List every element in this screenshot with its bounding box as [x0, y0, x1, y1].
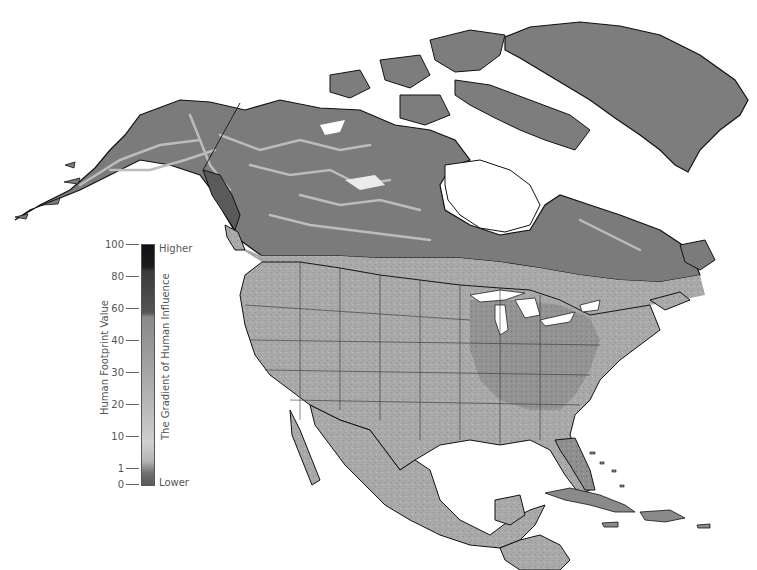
hispaniola	[640, 510, 685, 522]
legend-axis-label: Human Footprint Value	[99, 300, 110, 415]
greenland	[505, 22, 748, 172]
jamaica	[602, 522, 618, 527]
arctic-island-1	[380, 55, 430, 88]
arctic-island-2	[330, 70, 370, 98]
ellesmere-island	[430, 30, 505, 72]
bahamas	[590, 452, 624, 487]
cuba	[545, 488, 635, 512]
legend-gradient-label: The Gradient of Human Influence	[160, 273, 171, 440]
arctic-island-3	[400, 95, 450, 125]
legend-low-label: Lower	[159, 477, 189, 488]
baffin-island	[455, 80, 590, 150]
puerto-rico	[697, 524, 710, 528]
legend-high-label: Higher	[159, 243, 192, 254]
legend-gradient-bar	[141, 244, 155, 486]
